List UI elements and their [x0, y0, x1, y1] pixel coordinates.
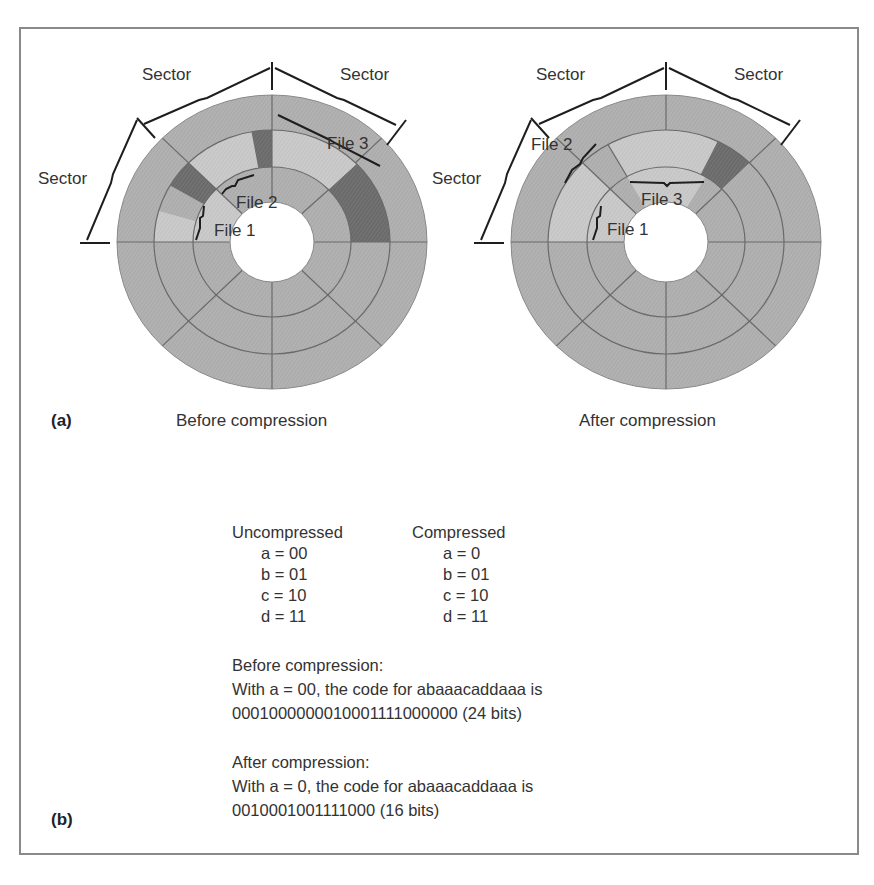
- after-compression-text: After compression: With a = 0, the code …: [232, 750, 533, 822]
- after-line: With a = 0, the code for abaaacaddaaa is: [232, 774, 533, 798]
- panel-a-label: (a): [51, 411, 72, 431]
- panel-b-label: (b): [51, 810, 73, 830]
- spindle-hole: [624, 202, 708, 282]
- code-row: b = 01: [232, 564, 343, 585]
- sector-label: Sector: [340, 66, 389, 83]
- code-row: c = 10: [412, 585, 506, 606]
- code-row: d = 11: [232, 606, 343, 627]
- spindle-hole: [230, 202, 314, 282]
- after-code: 0010001001111000 (16 bits): [232, 798, 533, 822]
- after-heading: After compression:: [232, 750, 533, 774]
- uncompressed-column: Uncompressed a = 00 b = 01 c = 10 d = 11: [232, 522, 343, 627]
- file-label: File 2: [531, 136, 573, 153]
- uncompressed-header: Uncompressed: [232, 522, 343, 543]
- file-label: File 1: [607, 221, 649, 238]
- code-row: a = 0: [412, 543, 506, 564]
- before-line: With a = 00, the code for abaaacaddaaa i…: [232, 677, 543, 701]
- sector-label: Sector: [536, 66, 585, 83]
- file-label: File 2: [236, 194, 278, 211]
- sector-label: Sector: [38, 170, 87, 187]
- compressed-header: Compressed: [412, 522, 506, 543]
- code-row: d = 11: [412, 606, 506, 627]
- code-row: b = 01: [412, 564, 506, 585]
- before-heading: Before compression:: [232, 653, 543, 677]
- sector-label: Sector: [734, 66, 783, 83]
- disk-before-compression: [117, 95, 427, 389]
- file-label: File 1: [214, 222, 256, 239]
- before-compression-text: Before compression: With a = 00, the cod…: [232, 653, 543, 725]
- before-code: 0001000000010001111000000 (24 bits): [232, 701, 543, 725]
- after-caption: After compression: [579, 411, 716, 431]
- code-row: c = 10: [232, 585, 343, 606]
- compressed-column: Compressed a = 0 b = 01 c = 10 d = 11: [412, 522, 506, 627]
- sector-label: Sector: [142, 66, 191, 83]
- file-label: File 3: [327, 135, 369, 152]
- sector-label: Sector: [432, 170, 481, 187]
- code-row: a = 00: [232, 543, 343, 564]
- before-caption: Before compression: [176, 411, 327, 431]
- file-label: File 3: [641, 191, 683, 208]
